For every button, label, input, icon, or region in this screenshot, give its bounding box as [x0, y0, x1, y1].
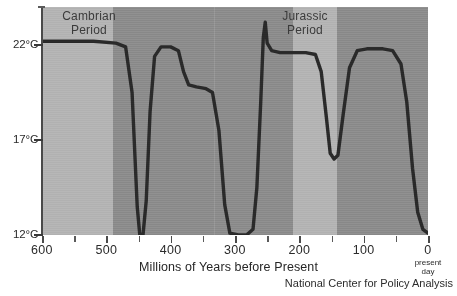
x-tick	[42, 236, 44, 243]
x-minor-tick	[203, 236, 205, 242]
cambrian-period-label: Cambrian Period	[55, 10, 123, 37]
x-minor-tick	[74, 236, 76, 242]
x-tick-label: 0	[424, 243, 431, 257]
y-tick-label-wrap: 22°C	[0, 38, 38, 50]
x-tick	[235, 236, 237, 243]
x-axis-title: Millions of Years before Present	[0, 260, 457, 274]
cambrian-label-line1: Cambrian	[55, 10, 123, 24]
x-minor-tick	[139, 236, 141, 242]
present-day-line2: day	[415, 267, 442, 276]
y-tick-label: 22°C	[0, 38, 38, 50]
x-minor-tick	[396, 236, 398, 242]
jurassic-label-line1: Jurassic	[271, 10, 339, 24]
y-tick-label-wrap: 12°C	[0, 228, 38, 240]
y-axis-top-nub	[38, 6, 45, 8]
y-axis-spine	[41, 7, 43, 236]
x-tick-label: 300	[224, 243, 246, 257]
x-tick	[428, 236, 430, 243]
cambrian-label-line2: Period	[55, 24, 123, 38]
plot-area	[42, 7, 428, 235]
x-tick	[171, 236, 173, 243]
x-tick-label: 400	[160, 243, 182, 257]
x-minor-tick	[267, 236, 269, 242]
x-tick-label: 100	[353, 243, 375, 257]
x-tick	[106, 236, 108, 243]
x-tick-label: 600	[31, 243, 53, 257]
y-tick-label-wrap: 17°C	[0, 133, 38, 145]
y-tick-label: 12°C	[0, 228, 38, 240]
chart-root: 22°C17°C12°C 6005004003002001000 Cambria…	[0, 0, 457, 296]
jurassic-label-line2: Period	[271, 24, 339, 38]
x-tick-label: 500	[95, 243, 117, 257]
temperature-curve	[42, 7, 428, 235]
x-tick	[364, 236, 366, 243]
x-tick	[299, 236, 301, 243]
present-day-note: present day	[415, 258, 442, 276]
jurassic-period-label: Jurassic Period	[271, 10, 339, 37]
present-day-line1: present	[415, 258, 442, 267]
x-tick-label: 200	[288, 243, 310, 257]
y-tick-label: 17°C	[0, 133, 38, 145]
source-credit: National Center for Policy Analysis	[285, 277, 453, 289]
x-minor-tick	[332, 236, 334, 242]
